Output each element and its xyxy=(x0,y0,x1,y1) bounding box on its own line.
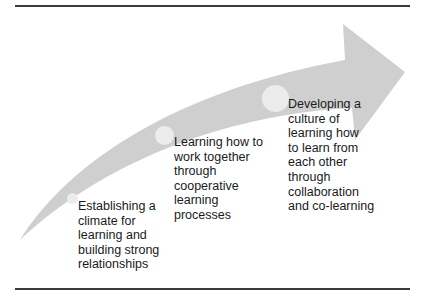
bottom-rule xyxy=(15,288,410,290)
stage-1-label: Establishing a climate for learning and … xyxy=(78,199,159,272)
stage-2-label: Learning how to work together through co… xyxy=(174,135,263,223)
stage-2-node xyxy=(155,126,174,145)
stage-1-node xyxy=(67,193,78,204)
stage-3-node xyxy=(262,85,289,112)
stage-3-label: Developing a culture of learning how to … xyxy=(288,97,374,214)
